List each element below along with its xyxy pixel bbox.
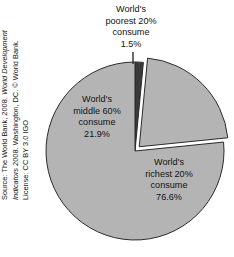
slice-label-middle: World's middle 60% consume 21.9% — [54, 94, 140, 140]
slice-label-poorest-line1: World's — [71, 4, 191, 16]
figure-canvas: Source: The World Bank, 2008. World Deve… — [0, 0, 234, 257]
slice-label-middle-line2: middle 60% — [54, 106, 140, 118]
pie-slice-group — [46, 58, 228, 240]
slice-label-richest-line3: consume — [121, 180, 217, 192]
slice-label-middle-line3: consume — [54, 117, 140, 129]
slice-label-poorest: World's poorest 20% consume 1.5% — [71, 4, 191, 50]
slice-label-middle-line1: World's — [54, 94, 140, 106]
slice-label-richest-line1: World's — [121, 157, 217, 169]
pie-slice-1 — [139, 58, 228, 147]
slice-label-richest-line2: richest 20% — [121, 169, 217, 181]
slice-label-middle-value: 21.9% — [54, 129, 140, 141]
slice-label-poorest-value: 1.5% — [71, 39, 191, 51]
slice-label-richest-value: 76.6% — [121, 192, 217, 204]
slice-label-poorest-line3: consume — [71, 27, 191, 39]
slice-label-poorest-line2: poorest 20% — [71, 16, 191, 28]
slice-label-richest: World's richest 20% consume 76.6% — [121, 157, 217, 203]
